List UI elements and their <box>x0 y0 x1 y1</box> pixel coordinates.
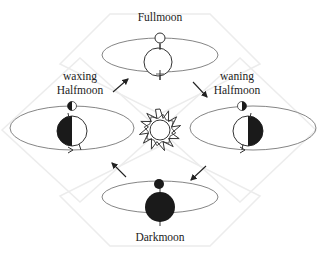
phase-fullmoon: Fullmoon <box>102 11 218 80</box>
moon-phase-diagram: Fullmoon waning Halfmoon Darkmoon <box>0 0 318 254</box>
moon-half-icon <box>238 102 247 111</box>
phase-darkmoon: Darkmoon <box>102 179 218 243</box>
moon-half-icon <box>68 102 77 111</box>
earth-icon <box>144 48 172 76</box>
label-waning: waning <box>220 70 254 83</box>
label-halfmoon-left: Halfmoon <box>57 84 104 96</box>
label-waxing: waxing <box>63 70 97 83</box>
moon-dark-icon <box>154 179 164 189</box>
moon-full-icon <box>155 33 165 43</box>
arrow-waxing-to-full <box>113 79 128 92</box>
sun-icon <box>139 109 180 151</box>
arrow-waning-to-dark <box>191 166 206 180</box>
label-halfmoon-right: Halfmoon <box>214 84 261 96</box>
phase-waxing-halfmoon: waxing Halfmoon <box>10 70 134 153</box>
earth-icon <box>145 192 175 222</box>
label-darkmoon: Darkmoon <box>135 231 184 243</box>
earth-icon <box>233 113 263 150</box>
arrow-dark-to-waxing <box>112 163 126 177</box>
earth-icon <box>57 113 87 150</box>
label-fullmoon: Fullmoon <box>138 11 183 23</box>
